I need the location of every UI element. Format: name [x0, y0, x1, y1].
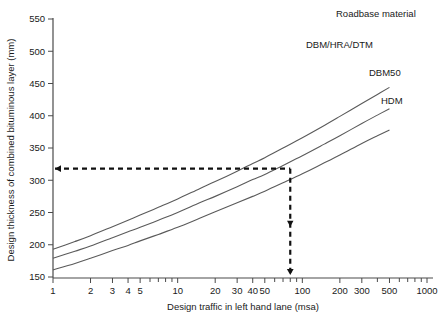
series-label-dbm-hra-dtm: DBM/HRA/DTM — [306, 39, 373, 50]
x-axis-title: Design traffic in left hand lane (msa) — [167, 301, 319, 312]
x-tick-label: 1000 — [416, 285, 437, 296]
y-tick-label: 200 — [29, 239, 45, 250]
series-label-hdm: HDM — [381, 95, 403, 106]
y-tick-label: 500 — [29, 46, 45, 57]
x-tick-label: 20 — [210, 285, 221, 296]
y-tick-label: 350 — [29, 142, 45, 153]
y-tick-label: 250 — [29, 207, 45, 218]
x-tick-label: 200 — [332, 285, 348, 296]
y-tick-label: 550 — [29, 13, 45, 24]
x-tick-label: 3 — [110, 285, 115, 296]
x-tick-label: 1 — [50, 285, 55, 296]
x-tick-label: 10 — [172, 285, 183, 296]
series-label-dbm50: DBM50 — [369, 67, 401, 78]
x-tick-label: 4 — [125, 285, 130, 296]
y-tick-label: 150 — [29, 271, 45, 282]
y-tick-label: 300 — [29, 175, 45, 186]
x-tick-label: 100 — [294, 285, 310, 296]
y-axis-title: Design thickness of combined bituminous … — [5, 39, 16, 262]
y-tick-label: 450 — [29, 78, 45, 89]
chart-container: 150200250300350400450500550 123451020304… — [0, 0, 447, 324]
x-tick-label: 2 — [88, 285, 93, 296]
y-tick-label: 400 — [29, 110, 45, 121]
x-tick-label: 500 — [382, 285, 398, 296]
x-tick-label: 5 — [137, 285, 142, 296]
x-tick-label: 300 — [354, 285, 370, 296]
legend-title: Roadbase material — [336, 8, 416, 19]
chart-background — [0, 0, 447, 324]
design-thickness-chart: 150200250300350400450500550 123451020304… — [0, 0, 447, 324]
x-tick-label: 40 — [247, 285, 258, 296]
x-tick-label: 50 — [260, 285, 271, 296]
x-tick-label: 30 — [232, 285, 243, 296]
